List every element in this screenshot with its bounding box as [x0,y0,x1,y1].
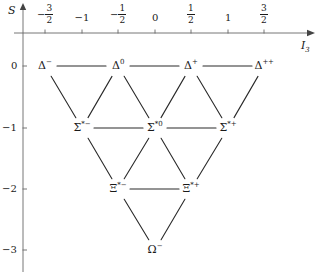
x-tick-label: 32 [260,4,268,25]
fraction-numerator: 1 [118,4,126,13]
y-tick-label: 0 [11,60,17,71]
fraction-denominator: 2 [187,16,195,25]
lattice-edge [234,76,258,117]
x-tick-label: −1 [75,12,90,23]
particle-label-delta-zero: Δ0 [112,58,124,72]
lattice-edge [197,76,222,117]
diagram-canvas [0,0,320,280]
x-tick-fraction: 32 [45,4,53,25]
lattice-edge [88,76,112,117]
lattice-edge [161,76,185,117]
x-tick-label: 0 [152,12,158,23]
particle-label-delta-minus: Δ− [38,58,52,72]
fraction-denominator: 2 [45,16,53,25]
x-tick-fraction: 32 [260,4,268,25]
lattice-edge [51,76,76,117]
x-axis-label: I3 [301,39,310,54]
particle-charge: + [231,120,237,128]
x-axis-arrowhead [307,30,315,36]
x-tick-label: 12 [187,4,195,25]
x-tick-label: 1 [225,12,231,23]
x-tick-text: 0 [152,12,158,23]
x-tick-text: 1 [225,12,231,23]
lattice-edge [161,138,185,178]
particle-charge: 0 [120,58,124,66]
lattice-edge [161,199,185,239]
lattice-edge [124,199,149,239]
lattice-edge [124,76,149,117]
fraction-numerator: 1 [187,4,195,13]
x-tick-sign: − [37,9,45,20]
lattice-edge [88,138,112,178]
fraction-numerator: 3 [45,4,53,13]
particle-charge: + [192,58,198,66]
particle-label-xi-star-plus: Ξ*+ [183,181,200,195]
particle-charge: − [121,181,127,189]
x-axis-label-subscript: 3 [305,46,309,54]
x-tick-sign: − [110,9,118,20]
particle-symbol: Δ [112,59,120,72]
particle-symbol: Σ [147,121,155,134]
x-tick-fraction: 12 [118,4,126,25]
y-axis-arrowhead [20,3,26,10]
particle-label-sigma-star-zero: Σ*0 [147,120,163,134]
particle-charge: + [194,181,200,189]
particle-label-xi-star-minus: Ξ*− [110,181,127,195]
y-tick-label: −3 [2,244,17,255]
weight-diagram-figure: S I3 −32−1−12012132 0−1−2−3 Δ−Δ0Δ+Δ++Σ*−… [0,0,320,280]
lattice-edge [124,138,149,178]
particle-label-sigma-star-plus: Σ*+ [220,120,237,134]
particle-symbol: Ω [148,243,157,256]
particle-label-delta-plusplus: Δ++ [255,58,274,72]
particle-symbol: Δ [184,59,192,72]
x-tick-label: −32 [37,4,53,25]
fraction-denominator: 2 [118,16,126,25]
particle-label-sigma-star-minus: Σ*− [74,120,91,134]
particle-charge: − [157,242,163,250]
particle-charge: − [85,120,91,128]
fraction-denominator: 2 [260,16,268,25]
y-tick-label: −2 [2,183,17,194]
x-tick-label: −12 [110,4,126,25]
particle-charge: ++ [262,58,273,66]
axes-group [14,3,315,272]
y-axis-label: S [8,4,16,17]
particle-symbol: Δ [38,59,46,72]
particle-charge: − [46,58,52,66]
fraction-numerator: 3 [260,4,268,13]
particle-charge: 0 [158,120,162,128]
particle-label-delta-plus: Δ+ [184,58,198,72]
lattice-edges [51,66,258,240]
lattice-edge [197,138,222,178]
y-tick-label: −1 [2,122,17,133]
x-tick-text: −1 [75,12,90,23]
particle-label-omega-minus: Ω− [148,242,163,256]
x-tick-fraction: 12 [187,4,195,25]
